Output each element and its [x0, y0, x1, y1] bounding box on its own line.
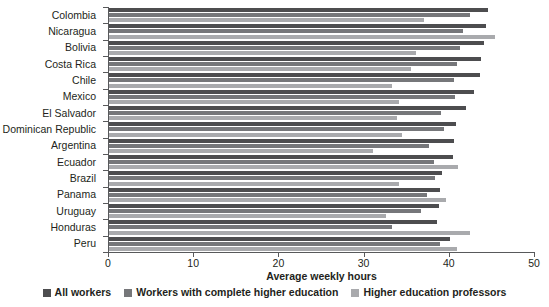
bar-higher-education-professors: [109, 149, 373, 153]
bar-higher-education-workers: [109, 176, 435, 180]
y-axis-label: Nicaragua: [0, 23, 100, 39]
x-axis-tick-label: 10: [187, 257, 199, 270]
bar-higher-education-workers: [109, 29, 463, 33]
bar-all-workers: [109, 139, 454, 143]
bar-group: [109, 154, 535, 170]
bar-all-workers: [109, 73, 480, 77]
bar-all-workers: [109, 171, 442, 175]
legend-item[interactable]: Workers with complete higher education: [124, 287, 338, 298]
y-axis-label: Panama: [0, 187, 100, 203]
bar-group: [109, 40, 535, 56]
x-axis-tick-label: 0: [105, 257, 111, 270]
x-axis-tick-label: 20: [273, 257, 285, 270]
bar-group: [109, 7, 535, 23]
legend-swatch-icon: [124, 289, 132, 297]
bar-higher-education-professors: [109, 214, 386, 218]
y-axis-label: Peru: [0, 236, 100, 252]
horizontal-bar-chart: ColombiaNicaraguaBoliviaCosta RicaChileM…: [0, 0, 549, 307]
bar-higher-education-professors: [109, 100, 399, 104]
x-axis-tick-labels: 01020304050: [108, 257, 535, 271]
bar-higher-education-professors: [109, 67, 411, 71]
x-axis-tick-label: 40: [443, 257, 455, 270]
bar-higher-education-professors: [109, 165, 458, 169]
bar-higher-education-workers: [109, 209, 421, 213]
bar-all-workers: [109, 57, 481, 61]
bar-higher-education-workers: [109, 127, 444, 131]
bar-all-workers: [109, 41, 484, 45]
y-axis-label: Argentina: [0, 138, 100, 154]
bar-higher-education-professors: [109, 35, 495, 39]
y-axis-label: Bolivia: [0, 40, 100, 56]
y-axis-label: Dominican Republic: [0, 121, 100, 137]
bar-group: [109, 138, 535, 154]
bar-higher-education-professors: [109, 198, 446, 202]
bar-higher-education-workers: [109, 144, 429, 148]
bar-group: [109, 89, 535, 105]
y-axis-label: Honduras: [0, 219, 100, 235]
bar-all-workers: [109, 90, 474, 94]
bar-higher-education-professors: [109, 231, 470, 235]
bar-higher-education-professors: [109, 84, 392, 88]
legend-label: Higher education professors: [363, 287, 506, 298]
bar-group: [109, 56, 535, 72]
bar-group: [109, 72, 535, 88]
legend-label: Workers with complete higher education: [136, 287, 338, 298]
bar-group: [109, 236, 535, 252]
y-axis-label: Mexico: [0, 89, 100, 105]
bar-group: [109, 23, 535, 39]
bar-higher-education-workers: [109, 95, 455, 99]
legend-swatch-icon: [43, 289, 51, 297]
bar-group: [109, 187, 535, 203]
bar-group: [109, 170, 535, 186]
bar-all-workers: [109, 106, 466, 110]
y-axis-label: Costa Rica: [0, 56, 100, 72]
bar-group: [109, 105, 535, 121]
bar-all-workers: [109, 188, 440, 192]
y-axis-label: Brazil: [0, 170, 100, 186]
bar-group: [109, 121, 535, 137]
bar-higher-education-professors: [109, 116, 397, 120]
bar-higher-education-workers: [109, 193, 427, 197]
bar-higher-education-workers: [109, 111, 441, 115]
bar-higher-education-professors: [109, 247, 457, 251]
plot-area: [108, 7, 535, 252]
x-axis-title: Average weekly hours: [108, 270, 535, 282]
bar-higher-education-workers: [109, 225, 392, 229]
bar-all-workers: [109, 220, 437, 224]
bar-group: [109, 203, 535, 219]
x-axis-tick-label: 50: [528, 257, 540, 270]
y-axis-label: El Salvador: [0, 105, 100, 121]
legend-item[interactable]: Higher education professors: [351, 287, 506, 298]
legend-label: All workers: [55, 287, 112, 298]
bar-all-workers: [109, 237, 450, 241]
y-axis-label: Colombia: [0, 7, 100, 23]
chart-legend: All workersWorkers with complete higher …: [0, 287, 549, 298]
bar-higher-education-workers: [109, 62, 457, 66]
bar-higher-education-workers: [109, 78, 454, 82]
bar-all-workers: [109, 155, 453, 159]
x-axis-tick-label: 30: [358, 257, 370, 270]
y-axis-label: Chile: [0, 72, 100, 88]
bar-all-workers: [109, 8, 488, 12]
bar-higher-education-professors: [109, 18, 424, 22]
bar-higher-education-professors: [109, 51, 416, 55]
bar-group: [109, 219, 535, 235]
bar-all-workers: [109, 204, 439, 208]
bar-groups-container: [109, 7, 535, 252]
bar-higher-education-workers: [109, 160, 434, 164]
bar-all-workers: [109, 122, 456, 126]
y-axis-label: Uruguay: [0, 203, 100, 219]
y-axis-category-labels: ColombiaNicaraguaBoliviaCosta RicaChileM…: [0, 7, 100, 252]
legend-swatch-icon: [351, 289, 359, 297]
bar-higher-education-workers: [109, 46, 460, 50]
bar-higher-education-professors: [109, 182, 399, 186]
legend-item[interactable]: All workers: [43, 287, 112, 298]
bar-higher-education-workers: [109, 242, 440, 246]
y-axis-label: Ecuador: [0, 154, 100, 170]
bar-higher-education-professors: [109, 133, 402, 137]
bar-higher-education-workers: [109, 13, 470, 17]
bar-all-workers: [109, 24, 486, 28]
